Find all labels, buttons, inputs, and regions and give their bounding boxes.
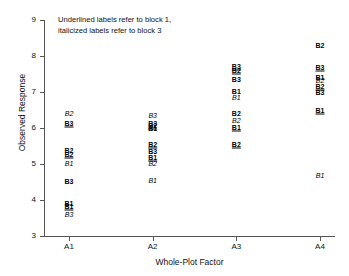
data-point-label: B1 <box>65 203 74 210</box>
y-tick <box>40 20 44 21</box>
data-point-label: B3 <box>65 178 74 185</box>
data-point-label: B1 <box>316 171 325 178</box>
x-axis-title: Whole-Plot Factor <box>44 258 335 267</box>
data-point-label: B3 <box>316 64 325 71</box>
data-point-label: B2 <box>232 109 241 116</box>
data-point-label: B1 <box>232 124 241 131</box>
x-tick <box>69 237 70 241</box>
data-point-label: B3 <box>316 89 325 96</box>
x-tick <box>153 237 154 241</box>
y-tick-label: 3 <box>22 232 36 240</box>
y-tick <box>40 200 44 201</box>
y-axis-line <box>44 20 45 237</box>
x-tick-label: A4 <box>305 243 335 251</box>
annotation-line-2: italicized labels refer to block 3 <box>58 25 171 36</box>
x-tick-label: A3 <box>221 243 251 251</box>
y-tick <box>40 128 44 129</box>
data-point-label: B2 <box>65 151 74 158</box>
x-tick <box>320 237 321 241</box>
x-tick-label: A1 <box>54 243 84 251</box>
chart-annotation: Underlined labels refer to block 1, ital… <box>58 14 171 36</box>
data-point-label: B1 <box>232 94 241 101</box>
y-tick <box>40 56 44 57</box>
x-tick-label: A2 <box>138 243 168 251</box>
y-tick <box>40 164 44 165</box>
x-tick <box>236 237 237 241</box>
data-point-label: B1 <box>65 160 74 167</box>
y-tick <box>40 92 44 93</box>
data-point-label: B3 <box>148 112 157 119</box>
y-axis-title: Observed Response <box>18 43 27 183</box>
y-tick <box>40 236 44 237</box>
scatter-chart: 3456789 A1A2A3A4 Observed Response Whole… <box>0 0 349 276</box>
annotation-line-1: Underlined labels refer to block 1, <box>58 14 171 25</box>
data-point-label: B3 <box>232 76 241 83</box>
data-point-label: B2 <box>232 67 241 74</box>
data-point-label: B2 <box>148 140 157 147</box>
data-point-label: B2 <box>65 109 74 116</box>
data-point-label: B2 <box>148 159 157 166</box>
y-tick-label: 9 <box>22 16 36 24</box>
data-point-label: B2 <box>316 42 325 49</box>
data-point-label: B3 <box>65 211 74 218</box>
data-point-label: B1 <box>316 107 325 114</box>
data-point-label: B1 <box>148 125 157 132</box>
data-point-label: B1 <box>148 176 157 183</box>
data-point-label: B2 <box>232 140 241 147</box>
data-point-label: B3 <box>65 119 74 126</box>
y-tick-label: 4 <box>22 196 36 204</box>
x-axis-line <box>44 236 335 237</box>
